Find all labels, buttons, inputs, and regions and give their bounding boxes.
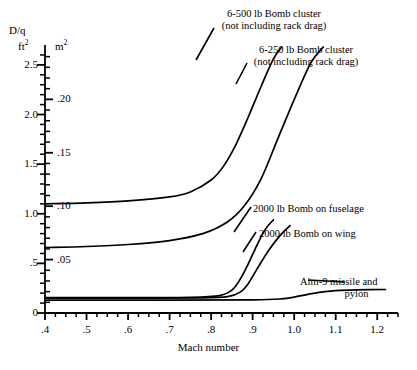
x-tick-6: 1.0 [276, 323, 312, 335]
leader-line-3 [243, 232, 256, 252]
x-tick-3: .7 [152, 323, 188, 335]
y-tick-left-0: 0 [10, 306, 38, 318]
y-tick-right-1: .10 [57, 199, 71, 211]
annotation-2000lb-wing: 2000 lb Bomb on wing [259, 228, 356, 240]
x-tick-4: .8 [193, 323, 229, 335]
curve-series-0 [45, 47, 282, 204]
annotation-6-250-line2: (not including rack drag) [228, 56, 384, 68]
y-tick-left-1: .5 [10, 256, 38, 268]
annotation-6-500-line2: (not including rack drag) [196, 20, 352, 32]
y-tick-left-2: 1.0 [10, 207, 38, 219]
y-axis-title-dq: D/q [9, 24, 26, 36]
figure-subcaption [0, 360, 417, 370]
curve-series-2 [45, 220, 273, 298]
leader-line-2 [234, 207, 251, 232]
annotation-aim9-line1: Aim-9 missile and [300, 276, 413, 288]
curve-series-1 [45, 47, 323, 247]
annotation-6-250-bomb-cluster: 6-250 lb Bomb cluster (not including rac… [228, 44, 384, 68]
annotation-aim9-missile: Aim-9 missile and pylon [300, 276, 413, 300]
y-axis-unit-ft2: ft2 [18, 38, 28, 52]
y-tick-left-4: 2.0 [10, 108, 38, 120]
x-tick-1: .5 [69, 323, 105, 335]
x-tick-0: .4 [27, 323, 63, 335]
x-axis-caption: Mach number [0, 341, 417, 353]
annotation-2000lb-fuselage: 2000 lb Bomb on fuselage [253, 203, 364, 215]
y-tick-left-3: 1.5 [10, 157, 38, 169]
y-axis-unit-m2: m2 [55, 38, 67, 52]
y-tick-right-0: .05 [57, 253, 71, 265]
annotation-6-250-line1: 6-250 lb Bomb cluster [228, 44, 384, 56]
annotation-6-500-bomb-cluster: 6-500 lb Bomb cluster (not including rac… [196, 8, 352, 32]
y-tick-left-5: 2.5 [10, 58, 38, 70]
x-tick-8: 1.2 [359, 323, 395, 335]
x-tick-5: .9 [235, 323, 271, 335]
annotation-aim9-line2: pylon [300, 288, 413, 300]
annotation-6-500-line1: 6-500 lb Bomb cluster [196, 8, 352, 20]
y-tick-right-3: .20 [57, 92, 71, 104]
x-tick-2: .6 [110, 323, 146, 335]
leader-line-0 [196, 28, 214, 60]
x-tick-7: 1.1 [318, 323, 354, 335]
chart-figure: D/q ft2 m2 0.51.01.52.02.5 .05.10.15.20 … [0, 0, 417, 370]
chart-curves [45, 47, 386, 300]
y-tick-right-2: .15 [57, 146, 71, 158]
